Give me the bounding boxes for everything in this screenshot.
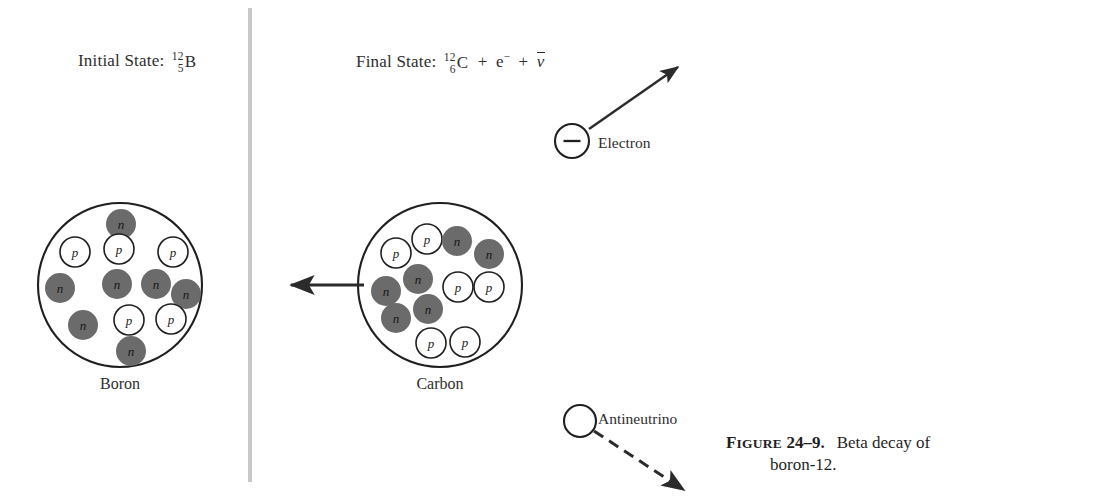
carbon-proton-5: p	[443, 272, 473, 302]
carbon-neutron-1: n	[442, 226, 472, 256]
boron-neutron-letter-5: n	[114, 277, 121, 292]
carbon-proton-letter-10: p	[427, 336, 435, 351]
boron-neutron-letter-6: n	[153, 277, 160, 292]
figure-caption-line-1: Beta decay of	[837, 433, 930, 452]
boron-nucleus-name: Boron	[60, 375, 180, 393]
initial-state-label: Initial State: 12 5 B	[78, 50, 197, 74]
carbon-proton-6: p	[474, 272, 504, 302]
final-state-plus-1: +	[478, 52, 488, 71]
boron-mass-number: 12	[172, 50, 184, 62]
carbon-neutron-9: n	[381, 303, 411, 333]
carbon-isotope-numbers: 12 6	[444, 51, 456, 75]
electron-symbol-e: e	[496, 52, 504, 71]
carbon-neutron-8: n	[413, 294, 443, 324]
carbon-neutron-letter-8: n	[425, 302, 432, 317]
carbon-proton-11: p	[450, 327, 480, 357]
boron-proton-letter-3: p	[169, 245, 177, 260]
boron-neutron-6: n	[141, 269, 171, 299]
carbon-neutron-4: n	[403, 264, 433, 294]
boron-proton-letter-9: p	[125, 313, 133, 328]
carbon-proton-letter-5: p	[454, 280, 462, 295]
antineutrino-circle	[564, 405, 596, 437]
carbon-nucleus-name: Carbon	[380, 375, 500, 393]
boron-neutron-letter-7: n	[183, 287, 190, 302]
boron-neutron-letter-4: n	[57, 281, 64, 296]
carbon-proton-0: p	[412, 224, 442, 254]
boron-proton-2: p	[104, 234, 134, 264]
boron-neutron-letter-8: n	[80, 318, 87, 333]
antineutrino-symbol-nubar: ν	[537, 52, 545, 71]
carbon-proton-letter-0: p	[423, 232, 431, 247]
carbon-proton-10: p	[416, 328, 446, 358]
final-state-electron: e−	[496, 52, 510, 71]
carbon-neutron-letter-4: n	[415, 272, 422, 287]
carbon-neutron-letter-9: n	[393, 311, 400, 326]
boron-neutron-letter-0: n	[118, 217, 125, 232]
boron-neutron-5: n	[102, 269, 132, 299]
electron-text-label: Electron	[598, 134, 651, 152]
carbon-proton-letter-6: p	[485, 280, 493, 295]
boron-nuclide-symbol: 12 5 B	[172, 50, 196, 74]
carbon-nuclide-symbol: 12 6 C	[444, 51, 468, 75]
carbon-neutron-letter-7: n	[383, 284, 390, 299]
carbon-neutron-letter-1: n	[454, 234, 461, 249]
figure-number-value: 24–9.	[786, 433, 824, 452]
carbon-neutron-3: n	[474, 239, 504, 269]
figure-number: FIGURE 24–9.	[726, 433, 825, 452]
antineutrino-arrow	[594, 431, 684, 490]
carbon-nucleus: pnpnnppnnnpp	[358, 203, 522, 367]
carbon-proton-letter-11: p	[461, 335, 469, 350]
figure-caption: FIGURE 24–9.Beta decay ofboron-12.	[726, 432, 1056, 477]
beta-decay-figure: npppnnnnnppnpnpnnppnnnpp Initial State: …	[0, 0, 1108, 498]
boron-neutron-11: n	[116, 336, 146, 366]
figure-word-initial: F	[726, 433, 736, 452]
boron-proton-letter-1: p	[71, 245, 79, 260]
boron-proton-3: p	[158, 237, 188, 267]
carbon-neutron-letter-3: n	[486, 247, 493, 262]
boron-proton-10: p	[156, 304, 186, 334]
final-state-text: Final State:	[356, 52, 436, 71]
antineutrino-text-label: Antineutrino	[598, 410, 677, 428]
carbon-neutron-7: n	[371, 276, 401, 306]
carbon-element-symbol: C	[457, 53, 469, 72]
boron-proton-1: p	[60, 237, 90, 267]
final-state-label: Final State: 12 6 C + e− + ν	[356, 50, 545, 75]
boron-proton-9: p	[114, 305, 144, 335]
carbon-proton-letter-2: p	[392, 246, 400, 261]
boron-neutron-8: n	[68, 310, 98, 340]
carbon-atomic-number: 6	[450, 63, 456, 75]
nuclei-group: npppnnnnnppnpnpnnppnnnpp	[38, 203, 522, 367]
carbon-proton-2: p	[381, 238, 411, 268]
electron-charge-superscript: −	[504, 50, 510, 62]
beta-decay-diagram: npppnnnnnppnpnpnnppnnnpp	[0, 0, 1108, 498]
boron-neutron-4: n	[45, 273, 75, 303]
initial-state-text: Initial State:	[78, 51, 164, 70]
boron-isotope-numbers: 12 5	[172, 50, 184, 74]
carbon-mass-number: 12	[444, 51, 456, 63]
boron-element-symbol: B	[185, 52, 197, 71]
boron-proton-letter-10: p	[167, 312, 175, 327]
electron-arrow	[589, 67, 678, 129]
boron-nucleus: npppnnnnnppn	[38, 203, 202, 367]
figure-caption-line-2: boron-12.	[770, 454, 1056, 477]
figure-word-rest: IGURE	[736, 436, 782, 451]
boron-neutron-letter-11: n	[128, 344, 135, 359]
boron-proton-letter-2: p	[115, 242, 123, 257]
final-state-plus-2: +	[519, 52, 529, 71]
boron-atomic-number: 5	[178, 62, 184, 74]
